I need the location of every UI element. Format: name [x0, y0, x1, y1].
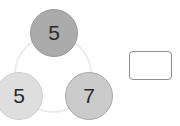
answer-input-box[interactable]: [129, 51, 172, 80]
number-circle-top-value: 5: [48, 21, 60, 45]
number-circle-bottom-right: 7: [65, 72, 113, 120]
number-circle-bottom-right-value: 7: [83, 84, 95, 108]
number-circle-bottom-left: 5: [0, 72, 43, 120]
number-circle-top: 5: [30, 9, 78, 57]
number-circle-bottom-left-value: 5: [13, 84, 25, 108]
